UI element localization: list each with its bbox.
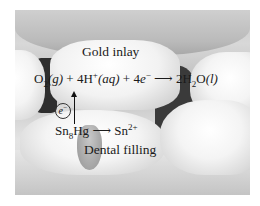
tin-symbol: Sn: [55, 123, 69, 138]
reaction-arrow-icon: ⟶: [151, 71, 176, 86]
lower-right-tooth: [160, 100, 250, 175]
water-o: O: [196, 71, 205, 86]
water-coef: 2H: [176, 71, 192, 86]
anode-reaction: Sn8Hg ⟶ Sn2+: [55, 124, 138, 137]
water-state: (l): [206, 71, 218, 86]
gold-inlay-label: Gold inlay: [82, 45, 139, 59]
electron-term: + 4: [120, 71, 140, 86]
h-term: + 4H: [63, 71, 93, 86]
tin-ion-charge: 2+: [128, 122, 138, 132]
o2-symbol: O: [34, 71, 43, 86]
electron-circle-icon: e−: [55, 103, 71, 119]
dental-photo: [15, 10, 250, 195]
o2-state: (g): [48, 71, 63, 86]
tin-ion: Sn: [114, 123, 128, 138]
electron-flow-arrow-icon: [74, 96, 75, 124]
dental-filling-label: Dental filling: [84, 143, 156, 157]
h-state: (aq): [98, 71, 120, 86]
cathode-reaction: O2(g) + 4H+(aq) + 4e− ⟶ 2H2O(l): [34, 72, 218, 85]
anode-arrow-icon: ⟶: [89, 123, 114, 138]
mercury-symbol: Hg: [73, 123, 89, 138]
electron-circle-charge: −: [63, 104, 68, 112]
